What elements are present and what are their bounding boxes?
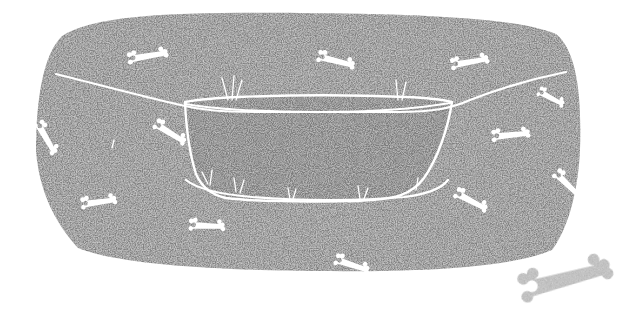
dog-bed-illustration xyxy=(0,0,635,317)
illustration-canvas xyxy=(0,0,635,317)
